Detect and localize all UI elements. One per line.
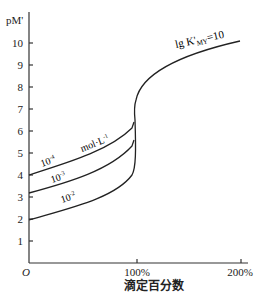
unit-annotation: mol·L-1	[79, 132, 111, 153]
svg-text:3: 3	[18, 191, 24, 203]
svg-text:2: 2	[18, 213, 24, 225]
svg-text:lg K'MY=10: lg K'MY=10	[174, 28, 226, 52]
svg-text:10: 10	[12, 37, 24, 49]
y-axis-label: pM'	[6, 14, 23, 26]
svg-text:1: 1	[18, 235, 24, 247]
svg-text:10-2: 10-2	[59, 190, 77, 205]
svg-text:9: 9	[18, 59, 24, 71]
y-tick-labels: 1 2 3 4 5 6 7 8 9 10	[12, 37, 24, 247]
svg-text:mol·L-1: mol·L-1	[79, 132, 111, 153]
svg-text:5: 5	[18, 147, 24, 159]
x-axis-title: 滴定百分数	[20, 276, 267, 293]
lgk-annotation: lg K'MY=10	[174, 28, 226, 52]
titration-chart: 1 2 3 4 5 6 7 8 9 10 pM' O 100% 200% lg …	[0, 0, 267, 308]
svg-text:8: 8	[18, 81, 24, 93]
svg-text:4: 4	[18, 169, 24, 181]
svg-text:7: 7	[18, 103, 24, 115]
conc-label-1e-2: 10-2	[59, 190, 77, 205]
svg-text:6: 6	[18, 125, 24, 137]
